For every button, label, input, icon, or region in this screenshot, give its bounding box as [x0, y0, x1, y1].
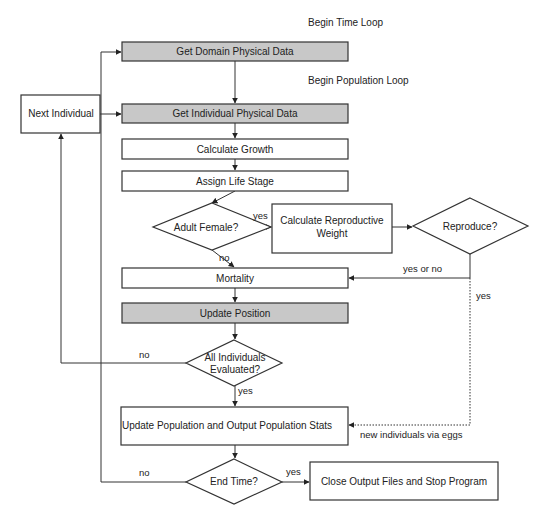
label-next-individual: Next Individual — [28, 108, 94, 119]
label-calc-repro-1: Calculate Reproductive — [280, 215, 384, 226]
edge-label-adult-no: no — [219, 252, 230, 263]
edge-new-individuals — [349, 278, 470, 425]
label-reproduce: Reproduce? — [443, 221, 498, 232]
edge-label-repro-yes: yes — [476, 290, 491, 301]
node-all-eval — [186, 340, 282, 386]
label-get-individual: Get Individual Physical Data — [172, 108, 298, 119]
time-loop-annotation: Begin Time Loop — [308, 17, 383, 28]
label-mortality: Mortality — [216, 273, 254, 284]
label-end-time: End Time? — [210, 476, 258, 487]
label-adult-female: Adult Female? — [174, 222, 239, 233]
edge-label-end-yes: yes — [286, 466, 301, 477]
flowchart: Begin Time Loop Begin Population Loop — [0, 0, 546, 522]
label-all-eval-1: All Individuals — [204, 352, 265, 363]
label-update-position: Update Position — [200, 308, 271, 319]
label-get-domain: Get Domain Physical Data — [176, 46, 294, 57]
edge-stage-to-adult-female — [212, 191, 235, 203]
edge-label-all-eval-yes: yes — [238, 385, 253, 396]
edge-all-eval-no — [61, 134, 186, 363]
population-loop-annotation: Begin Population Loop — [308, 75, 409, 86]
label-assign-stage: Assign Life Stage — [196, 176, 274, 187]
label-calc-repro-2: Weight — [317, 228, 348, 239]
edge-label-adult-yes: yes — [253, 210, 268, 221]
label-calc-growth: Calculate Growth — [197, 144, 274, 155]
label-update-population: Update Population and Output Population … — [122, 420, 332, 431]
edge-label-all-eval-no: no — [139, 349, 150, 360]
edge-label-end-no: no — [139, 467, 150, 478]
edge-label-new-individuals: new individuals via eggs — [360, 429, 463, 440]
edge-label-repro-yes-or-no: yes or no — [403, 263, 442, 274]
label-all-eval-2: Evaluated? — [210, 364, 260, 375]
label-close-output: Close Output Files and Stop Program — [321, 476, 487, 487]
